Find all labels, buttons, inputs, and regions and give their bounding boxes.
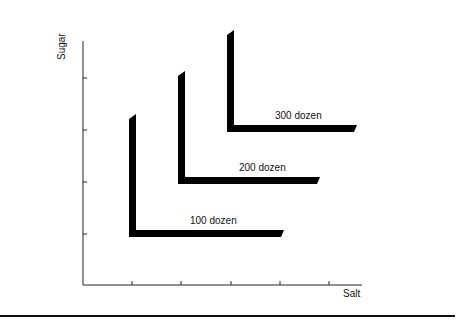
isoquant-label-100: 100 dozen <box>190 215 237 226</box>
isoquant-label-300: 300 dozen <box>275 110 322 121</box>
x-ticks <box>132 281 329 285</box>
y-ticks <box>83 78 87 234</box>
x-axis-label: Salt <box>343 288 360 299</box>
isoquant-label-200: 200 dozen <box>239 162 286 173</box>
isoquant-diagram <box>0 0 465 328</box>
y-axis-label: Sugar <box>56 33 67 60</box>
